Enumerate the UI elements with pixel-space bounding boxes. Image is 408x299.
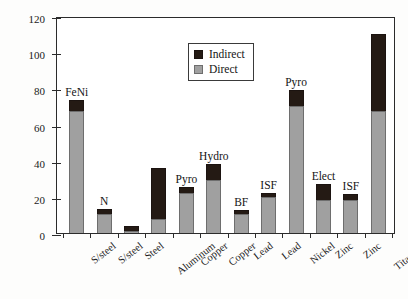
- bar-annotation-10: ISF: [343, 180, 360, 192]
- bar-segment-indirect-11: [371, 34, 386, 111]
- x-tick-3: [145, 233, 146, 238]
- water-consumption-chart: Water consumption (m3/t metal) 020406080…: [0, 0, 408, 299]
- y-tick-label-60: 60: [34, 122, 45, 134]
- x-tick-4: [173, 233, 174, 238]
- y-tick-label-100: 100: [29, 49, 46, 61]
- bar-segment-direct-11: [371, 111, 386, 233]
- x-axis-label-1: S/steel: [116, 240, 145, 266]
- bar-segment-direct-4: [179, 193, 194, 233]
- x-axis-label-8: Nickel: [308, 240, 337, 266]
- y-tick-inner-20: [57, 199, 61, 200]
- y-tick-label-80: 80: [34, 85, 45, 97]
- bar-segment-direct-10: [343, 200, 358, 233]
- bar-segment-direct-7: [261, 197, 276, 233]
- bar-annotation-9: Elect: [312, 170, 336, 182]
- bar-annotation-5: Hydro: [199, 150, 228, 162]
- bar-segment-indirect-9: [316, 184, 331, 200]
- bar-segment-direct-1: [97, 214, 112, 233]
- legend-swatch-indirect-icon: [194, 50, 203, 59]
- bar-segment-direct-2: [124, 231, 139, 233]
- legend-entry-indirect: Indirect: [194, 47, 245, 62]
- x-axis-label-7: Lead: [279, 240, 302, 262]
- bar-segment-indirect-8: [289, 90, 304, 106]
- legend-swatch-direct-icon: [194, 65, 203, 74]
- bar-segment-direct-5: [206, 180, 221, 233]
- bar-annotation-1: N: [100, 195, 108, 207]
- x-tick-5: [200, 233, 201, 238]
- plot-area: 020406080100120 FeNiNPyroHydroBFISFPyroE…: [56, 17, 395, 234]
- bar-segment-direct-3: [151, 219, 166, 233]
- bar-1-s-steel: N: [97, 209, 112, 233]
- bar-5-copper: Hydro: [206, 164, 221, 233]
- x-tick-6: [228, 233, 229, 238]
- bar-annotation-4: Pyro: [176, 173, 198, 185]
- bar-annotation-0: FeNi: [65, 86, 88, 98]
- x-axis-label-9: Zinc: [334, 240, 356, 261]
- x-axis-label-6: Lead: [252, 240, 275, 262]
- x-tick-9: [310, 233, 311, 238]
- bar-annotation-7: ISF: [260, 179, 277, 191]
- bar-annotation-6: BF: [234, 196, 248, 208]
- bar-segment-direct-0: [69, 111, 84, 233]
- x-tick-12: [392, 233, 393, 238]
- x-axis-label-10: Zinc: [361, 240, 383, 261]
- x-axis-label-2: Steel: [142, 240, 165, 262]
- bar-segment-direct-9: [316, 200, 331, 233]
- bar-3-aluminum: [151, 168, 166, 233]
- y-tick-label-40: 40: [34, 158, 45, 170]
- bar-segment-indirect-0: [69, 100, 84, 111]
- y-tick-inner-80: [57, 90, 61, 91]
- x-axis-label-0: S/steel: [89, 240, 118, 266]
- bar-4-copper: Pyro: [179, 187, 194, 233]
- bar-10-zinc: ISF: [343, 194, 358, 233]
- x-tick-10: [337, 233, 338, 238]
- legend: Indirect Direct: [188, 43, 254, 81]
- x-tick-7: [255, 233, 256, 238]
- bar-0-s-steel: FeNi: [69, 100, 84, 233]
- y-tick-label-120: 120: [29, 13, 46, 25]
- y-tick-label-20: 20: [34, 194, 45, 206]
- bar-6-lead: BF: [234, 210, 249, 233]
- bar-7-lead: ISF: [261, 193, 276, 233]
- y-tick-label-0: 0: [40, 230, 46, 242]
- x-tick-8: [282, 233, 283, 238]
- y-tick-inner-0: [57, 235, 61, 236]
- x-tick-1: [90, 233, 91, 238]
- x-tick-11: [365, 233, 366, 238]
- bar-annotation-8: Pyro: [285, 76, 307, 88]
- legend-label-direct: Direct: [209, 64, 238, 76]
- bar-11-titanium: [371, 34, 386, 233]
- bar-8-nickel: Pyro: [289, 90, 304, 233]
- bar-segment-direct-8: [289, 106, 304, 233]
- bar-segment-indirect-5: [206, 164, 221, 179]
- y-tick-inner-100: [57, 54, 61, 55]
- legend-entry-direct: Direct: [194, 62, 245, 77]
- bar-2-steel: [124, 226, 139, 233]
- y-tick-inner-60: [57, 127, 61, 128]
- x-tick-2: [118, 233, 119, 238]
- legend-label-indirect: Indirect: [209, 49, 245, 61]
- y-tick-inner-120: [57, 18, 61, 19]
- x-axis-label-11: Titanium: [392, 240, 408, 272]
- bar-segment-direct-6: [234, 214, 249, 233]
- x-tick-0: [63, 233, 64, 238]
- bar-segment-indirect-3: [151, 168, 166, 219]
- y-tick-inner-40: [57, 163, 61, 164]
- bar-9-zinc: Elect: [316, 184, 331, 233]
